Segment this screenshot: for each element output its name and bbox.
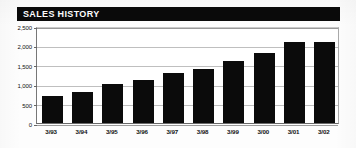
- bar-3-00: [254, 53, 275, 123]
- gridline: [37, 28, 338, 29]
- x-axis-label: 3/94: [76, 129, 88, 135]
- y-axis-label: 0: [29, 122, 32, 128]
- y-axis-tick: [34, 86, 37, 87]
- chart-title-banner: SALES HISTORY: [17, 7, 340, 21]
- plot-area: 05001,0001,5002,0002,500: [36, 27, 339, 124]
- bar-3-02: [314, 42, 335, 123]
- y-axis-tick: [34, 105, 37, 106]
- bar-3-93: [42, 96, 63, 123]
- bar-3-99: [223, 61, 244, 123]
- y-axis-label: 2,500: [17, 25, 32, 31]
- x-axis-label: 3/00: [257, 129, 269, 135]
- bar-3-95: [102, 84, 123, 123]
- y-axis-label: 500: [22, 103, 32, 109]
- x-axis-label: 3/99: [227, 129, 239, 135]
- x-axis-label: 3/96: [136, 129, 148, 135]
- x-axis-label: 3/97: [167, 129, 179, 135]
- bar-3-94: [72, 92, 93, 123]
- y-axis-tick: [34, 125, 37, 126]
- y-axis-label: 1,000: [17, 83, 32, 89]
- y-axis-tick: [34, 66, 37, 67]
- y-axis-tick: [34, 47, 37, 48]
- bar-3-97: [163, 73, 184, 123]
- x-axis-label: 3/93: [45, 129, 57, 135]
- x-axis-label: 3/98: [197, 129, 209, 135]
- y-axis-tick: [34, 28, 37, 29]
- sales-history-chart-figure: SALES HISTORY 05001,0001,5002,0002,500 3…: [0, 0, 356, 148]
- gridline: [37, 125, 338, 126]
- bar-3-98: [193, 69, 214, 123]
- x-axis-label: 3/02: [318, 129, 330, 135]
- x-axis-label: 3/95: [106, 129, 118, 135]
- bar-3-96: [133, 80, 154, 123]
- y-axis-label: 2,000: [17, 44, 32, 50]
- y-axis-label: 1,500: [17, 64, 32, 70]
- bar-3-01: [284, 42, 305, 123]
- x-axis-label: 3/01: [288, 129, 300, 135]
- page-title: SALES HISTORY: [17, 10, 100, 19]
